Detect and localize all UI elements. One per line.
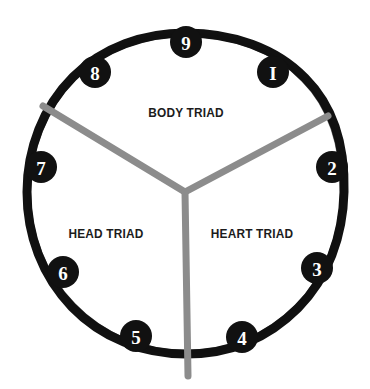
enneagram-diagram: BODY TRIAD HEAD TRIAD HEART TRIAD 9 I 2 …: [0, 0, 370, 389]
enneagram-node-9[interactable]: 9: [170, 26, 202, 58]
triad-labels: BODY TRIAD HEAD TRIAD HEART TRIAD: [69, 104, 294, 241]
enneagram-node-7[interactable]: 7: [25, 151, 57, 183]
triad-label-body: BODY TRIAD: [148, 104, 223, 120]
enneagram-canvas: BODY TRIAD HEAD TRIAD HEART TRIAD 9 I 2 …: [0, 0, 370, 389]
node-7-label: 7: [36, 158, 46, 179]
node-2-label: 2: [327, 158, 337, 179]
node-9-label: 9: [181, 33, 191, 54]
enneagram-node-3[interactable]: 3: [301, 252, 333, 284]
triad-label-head: HEAD TRIAD: [69, 225, 144, 241]
node-4-label: 4: [237, 328, 247, 349]
enneagram-node-5[interactable]: 5: [120, 320, 152, 352]
enneagram-node-8[interactable]: 8: [79, 56, 111, 88]
triad-dividers: [43, 106, 328, 376]
node-5-label: 5: [131, 327, 141, 348]
node-8-label: 8: [90, 63, 100, 84]
enneagram-node-6[interactable]: 6: [47, 256, 79, 288]
node-6-label: 6: [58, 263, 68, 284]
node-1-label: I: [269, 63, 276, 84]
enneagram-node-1[interactable]: I: [257, 56, 289, 88]
divider-bottom: [185, 192, 188, 376]
triad-label-heart: HEART TRIAD: [211, 225, 293, 241]
enneagram-node-2[interactable]: 2: [316, 151, 348, 183]
enneagram-node-4[interactable]: 4: [226, 321, 258, 353]
node-3-label: 3: [312, 259, 322, 280]
divider-upper-right: [185, 116, 328, 192]
